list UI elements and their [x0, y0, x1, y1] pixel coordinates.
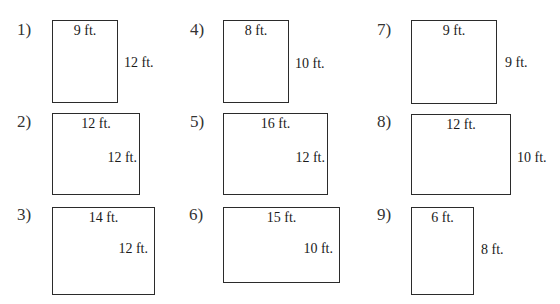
- rectangle: 12 ft.: [411, 114, 511, 195]
- problem-number: 9): [377, 206, 391, 223]
- height-label: 12 ft.: [107, 151, 137, 165]
- width-label: 14 ft.: [53, 211, 154, 225]
- height-label: 10 ft.: [295, 57, 325, 71]
- rectangle: 15 ft. 10 ft.: [223, 207, 340, 283]
- problem-number: 1): [17, 21, 31, 38]
- width-label: 16 ft.: [224, 117, 327, 131]
- height-label: 12 ft.: [124, 56, 154, 70]
- problem-number: 8): [377, 113, 391, 130]
- width-label: 6 ft.: [412, 211, 473, 225]
- problem-number: 3): [17, 206, 31, 223]
- height-label: 10 ft.: [517, 151, 547, 165]
- width-label: 9 ft.: [53, 24, 117, 38]
- width-label: 12 ft.: [53, 117, 139, 131]
- width-label: 8 ft.: [224, 24, 288, 38]
- width-label: 9 ft.: [412, 24, 496, 38]
- height-label: 12 ft.: [118, 242, 148, 256]
- width-label: 15 ft.: [224, 211, 339, 225]
- problem-number: 2): [17, 113, 31, 130]
- rectangle: 16 ft. 12 ft.: [223, 113, 328, 195]
- rectangle: 9 ft.: [411, 20, 497, 104]
- rectangle: 14 ft. 12 ft.: [52, 207, 155, 295]
- height-label: 10 ft.: [303, 242, 333, 256]
- height-label: 8 ft.: [481, 243, 504, 257]
- height-label: 9 ft.: [505, 56, 528, 70]
- height-label: 12 ft.: [295, 151, 325, 165]
- rectangle: 9 ft.: [52, 20, 118, 103]
- problem-number: 4): [190, 21, 204, 38]
- rectangle: 6 ft.: [411, 207, 474, 295]
- rectangle: 12 ft. 12 ft.: [52, 113, 140, 195]
- problem-number: 5): [190, 113, 204, 130]
- width-label: 12 ft.: [412, 118, 510, 132]
- rectangle: 8 ft.: [223, 20, 289, 103]
- problem-number: 7): [377, 21, 391, 38]
- problem-number: 6): [189, 206, 203, 223]
